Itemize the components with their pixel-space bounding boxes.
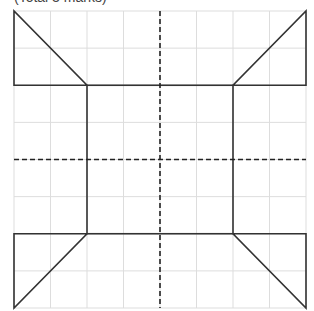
symmetry-grid-diagram (0, 0, 314, 311)
